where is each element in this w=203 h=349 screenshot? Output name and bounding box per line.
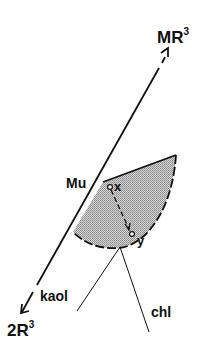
axis-lower-dash bbox=[22, 292, 33, 312]
point-y-marker bbox=[130, 232, 135, 237]
axis-upper-dash bbox=[162, 57, 165, 63]
label-kaol: kaol bbox=[40, 288, 68, 304]
shaded-field bbox=[73, 155, 176, 248]
label-chl: chl bbox=[151, 304, 171, 320]
label-point-y: y bbox=[137, 233, 145, 248]
mr3-arrowhead-icon bbox=[161, 48, 168, 57]
label-point-x: x bbox=[114, 179, 122, 194]
point-x-marker bbox=[108, 185, 113, 190]
chl-tie-line bbox=[120, 247, 149, 332]
kaol-tie-line bbox=[77, 247, 120, 311]
label-2r3: 2R3 bbox=[7, 319, 35, 340]
ternary-phase-diagram: MR3 Mu x y kaol chl 2R3 bbox=[0, 0, 203, 349]
label-mr3: MR3 bbox=[157, 26, 189, 47]
label-mu: Mu bbox=[66, 175, 86, 191]
